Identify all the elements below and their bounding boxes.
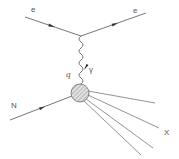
photon-arrow-icon xyxy=(84,64,89,70)
nucleon-in-line xyxy=(10,96,72,120)
hadron-blob xyxy=(71,84,89,102)
label-momentum-q: q xyxy=(66,69,71,79)
photon-wavy-line xyxy=(79,36,83,84)
feynman-diagram: e e q γ N X xyxy=(0,0,179,159)
electron-in-line xyxy=(25,17,81,36)
label-final-state: X xyxy=(164,128,170,137)
arrow-icon xyxy=(112,23,118,27)
label-photon: γ xyxy=(89,65,93,74)
label-electron-out: e xyxy=(133,6,138,15)
label-nucleon: N xyxy=(11,101,17,110)
arrow-icon xyxy=(48,24,55,27)
arrow-icon xyxy=(39,107,45,111)
label-electron-in: e xyxy=(31,5,36,14)
final-state-lines xyxy=(84,91,159,155)
electron-out-line xyxy=(81,13,146,36)
